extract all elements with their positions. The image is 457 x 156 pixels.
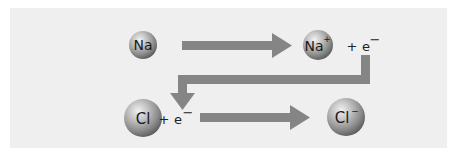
arrow-right-icon (200, 105, 310, 130)
cl-symbol: Cl (136, 110, 151, 128)
released-electron: + e − (347, 32, 381, 54)
electron-symbol: e (174, 112, 182, 127)
added-electron: + e − (159, 105, 194, 127)
plus-sign: + (159, 112, 170, 127)
na-atom: Na (129, 31, 157, 59)
cl-ion: Cl − (327, 98, 365, 136)
cl-atom: Cl (124, 99, 162, 137)
na-ion-charge: + (323, 34, 331, 44)
arrow-right-icon (182, 33, 292, 58)
cl-ion-symbol: Cl (335, 109, 350, 127)
cl-ion-charge: − (351, 106, 359, 116)
electron-charge: − (183, 105, 194, 120)
ion-formation-diagram: Na Na + + e − Cl + e − Cl (0, 0, 457, 156)
electron-charge: − (370, 32, 381, 47)
na-symbol: Na (133, 37, 152, 53)
na-ion: Na + (303, 30, 333, 60)
na-ion-symbol: Na (304, 38, 323, 54)
plus-sign: + (347, 39, 358, 54)
